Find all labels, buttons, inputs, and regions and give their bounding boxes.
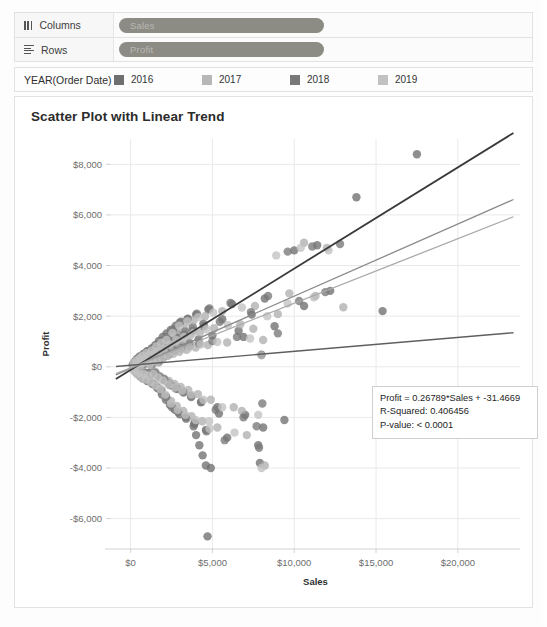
legend-item-2016[interactable]: 2016: [114, 74, 202, 85]
scatter-point[interactable]: [194, 313, 202, 321]
scatter-point[interactable]: [171, 383, 179, 391]
legend-title: YEAR(Order Date): [15, 74, 114, 86]
scatter-point[interactable]: [183, 317, 191, 325]
pill-sales[interactable]: Sales: [119, 18, 324, 33]
scatter-point[interactable]: [178, 386, 186, 394]
scatter-point[interactable]: [167, 399, 175, 407]
x-tick-label: $10,000: [277, 557, 311, 568]
scatter-point[interactable]: [181, 411, 189, 419]
scatter-point[interactable]: [280, 416, 288, 424]
tooltip-p-value: P-value: < 0.0001: [380, 419, 530, 432]
scatter-point[interactable]: [339, 303, 347, 311]
scatter-point[interactable]: [213, 338, 221, 346]
scatter-point[interactable]: [272, 251, 280, 259]
scatter-point[interactable]: [255, 444, 263, 452]
scatter-point[interactable]: [238, 303, 246, 311]
x-tick-label: $15,000: [359, 557, 393, 568]
pill-profit[interactable]: Profit: [119, 42, 324, 57]
x-tick-label: $0: [125, 557, 136, 568]
scatter-point[interactable]: [218, 403, 226, 411]
legend-label-2017: 2017: [219, 74, 241, 85]
rows-shelf[interactable]: Rows Profit: [14, 37, 533, 62]
scatter-point[interactable]: [257, 464, 265, 472]
trend-line-2018[interactable]: [116, 200, 514, 375]
scatter-point[interactable]: [198, 451, 206, 459]
legend-item-2017[interactable]: 2017: [202, 74, 290, 85]
y-tick-label: $0: [91, 361, 102, 372]
rows-shelf-text: Rows: [41, 44, 67, 56]
scatter-point[interactable]: [207, 395, 215, 403]
trend-line-2016[interactable]: [116, 133, 514, 379]
tooltip-r-squared: R-Squared: 0.406456: [380, 405, 530, 418]
scatter-point[interactable]: [254, 411, 262, 419]
scatter-point[interactable]: [233, 333, 241, 341]
legend-label-2016: 2016: [131, 74, 153, 85]
columns-shelf[interactable]: Columns Sales: [14, 12, 533, 37]
x-tick-label: $5,000: [198, 557, 227, 568]
scatter-point[interactable]: [161, 390, 169, 398]
columns-shelf-text: Columns: [39, 19, 80, 31]
scatter-point[interactable]: [230, 403, 238, 411]
scatter-point[interactable]: [259, 336, 267, 344]
rows-icon: [24, 45, 34, 54]
scatter-point[interactable]: [199, 395, 207, 403]
scatter-point[interactable]: [239, 413, 247, 421]
right-edge-fade: [539, 0, 547, 627]
scatter-point[interactable]: [223, 338, 231, 346]
scatter-point[interactable]: [264, 292, 272, 300]
scatter-point[interactable]: [205, 417, 213, 425]
scatter-point[interactable]: [205, 425, 213, 433]
y-axis-title: Profit: [40, 331, 51, 357]
rows-shelf-label: Rows: [15, 38, 114, 61]
scatter-point[interactable]: [192, 416, 200, 424]
tableau-worksheet: Columns Sales Rows Profit YEAR(Order Dat…: [0, 0, 547, 627]
y-tick-label: -$6,000: [70, 513, 102, 524]
scatter-point[interactable]: [209, 308, 217, 316]
scatter-point[interactable]: [252, 422, 260, 430]
scatter-point[interactable]: [203, 532, 211, 540]
legend-item-2018[interactable]: 2018: [290, 74, 378, 85]
columns-shelf-dropzone[interactable]: Sales: [114, 13, 532, 37]
scatter-point[interactable]: [230, 428, 238, 436]
scatter-point[interactable]: [192, 431, 200, 439]
scatter-point[interactable]: [308, 242, 316, 250]
scatter-point[interactable]: [274, 329, 282, 337]
scatter-point[interactable]: [168, 329, 176, 337]
scatter-point[interactable]: [195, 441, 203, 449]
color-legend[interactable]: YEAR(Order Date) 2016 2017 2018 2019: [14, 67, 533, 92]
scatter-point[interactable]: [413, 150, 421, 158]
scatter-point[interactable]: [202, 325, 210, 333]
shelf-area: Columns Sales Rows Profit YEAR(Order Dat…: [14, 12, 533, 92]
scatter-point[interactable]: [258, 399, 266, 407]
scatter-point[interactable]: [221, 436, 229, 444]
y-tick-label: $8,000: [73, 159, 102, 170]
legend-swatch-2017: [202, 75, 212, 85]
scatter-point[interactable]: [352, 193, 360, 201]
rows-shelf-dropzone[interactable]: Profit: [114, 38, 532, 61]
scatter-point[interactable]: [187, 390, 195, 398]
scatter-point[interactable]: [202, 461, 210, 469]
scatter-plot-svg[interactable]: $8,000$6,000$4,000$2,000$0-$2,000-$4,000…: [15, 97, 532, 607]
legend-item-2019[interactable]: 2019: [378, 74, 466, 85]
scatter-point[interactable]: [283, 247, 291, 255]
scatter-point[interactable]: [257, 351, 265, 359]
scatter-point[interactable]: [246, 334, 254, 342]
plot-area[interactable]: $8,000$6,000$4,000$2,000$0-$2,000-$4,000…: [15, 97, 532, 607]
scatter-point[interactable]: [297, 244, 305, 252]
scatter-point[interactable]: [216, 318, 224, 326]
legend-label-2019: 2019: [395, 74, 417, 85]
scatter-point[interactable]: [243, 431, 251, 439]
scatter-point[interactable]: [285, 289, 293, 297]
columns-icon: [24, 21, 32, 30]
scatter-point[interactable]: [213, 423, 221, 431]
legend-items: 2016 2017 2018 2019: [114, 74, 532, 85]
y-tick-label: $4,000: [73, 260, 102, 271]
scatter-series-2016: [128, 150, 503, 541]
legend-label-2018: 2018: [307, 74, 329, 85]
y-tick-label: $6,000: [73, 209, 102, 220]
scatter-point[interactable]: [249, 325, 257, 333]
legend-swatch-2019: [378, 75, 388, 85]
scatter-point[interactable]: [175, 322, 183, 330]
scatter-point[interactable]: [378, 307, 386, 315]
scatter-point[interactable]: [174, 406, 182, 414]
